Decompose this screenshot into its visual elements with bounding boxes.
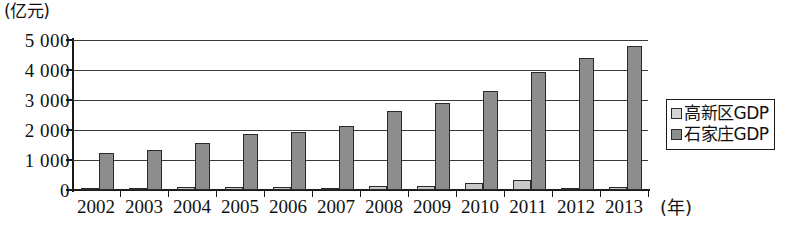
x-axis-unit-label: (年) xyxy=(660,197,692,219)
bar-shijiazhuang-2011 xyxy=(531,72,546,191)
bar-shijiazhuang-2004 xyxy=(195,143,210,190)
legend-item-0: 高新区GDP xyxy=(671,103,769,124)
bar-group-2004 xyxy=(168,40,216,190)
x-tick-label-2005: 2005 xyxy=(221,196,259,218)
bar-gaoxinqu-2002 xyxy=(81,188,99,190)
y-tick-label-5000: 5 000 xyxy=(25,31,70,50)
bar-gaoxinqu-2008 xyxy=(369,186,387,190)
bar-shijiazhuang-2008 xyxy=(387,111,402,191)
bar-shijiazhuang-2003 xyxy=(147,150,162,190)
legend-swatch-icon-1 xyxy=(671,129,682,140)
y-axis-tick-labels: 01 0002 0003 0004 0005 000 xyxy=(0,0,70,225)
legend-label-1: 石家庄GDP xyxy=(684,124,769,145)
x-tick-label-2002: 2002 xyxy=(77,196,115,218)
legend-swatch-icon-0 xyxy=(671,108,682,119)
bar-shijiazhuang-2010 xyxy=(483,91,498,190)
x-tick-label-2009: 2009 xyxy=(413,196,451,218)
bar-shijiazhuang-2005 xyxy=(243,134,258,190)
x-tick-label-2004: 2004 xyxy=(173,196,211,218)
x-tick-label-2012: 2012 xyxy=(557,196,595,218)
y-tick-label-3000: 3 000 xyxy=(25,91,70,110)
bar-group-2012 xyxy=(552,40,600,190)
bar-groups xyxy=(72,40,648,190)
legend-item-1: 石家庄GDP xyxy=(671,124,769,145)
bar-gaoxinqu-2003 xyxy=(129,188,147,190)
x-tick-label-2003: 2003 xyxy=(125,196,163,218)
bar-group-2008 xyxy=(360,40,408,190)
x-axis-tick-labels: 2002200320042005200620072008200920102011… xyxy=(72,196,672,222)
bar-gaoxinqu-2009 xyxy=(417,186,435,191)
bar-group-2013 xyxy=(600,40,648,190)
bar-group-2003 xyxy=(120,40,168,190)
bar-gaoxinqu-2004 xyxy=(177,187,195,190)
x-tick-label-2006: 2006 xyxy=(269,196,307,218)
bar-group-2007 xyxy=(312,40,360,190)
bar-group-2011 xyxy=(504,40,552,190)
x-tick-label-2011: 2011 xyxy=(509,196,546,218)
x-tick-label-2007: 2007 xyxy=(317,196,355,218)
y-tick-label-4000: 4 000 xyxy=(25,61,70,80)
x-tick-label-2008: 2008 xyxy=(365,196,403,218)
bar-group-2010 xyxy=(456,40,504,190)
bar-shijiazhuang-2006 xyxy=(291,132,306,190)
bar-gaoxinqu-2007 xyxy=(321,188,339,190)
bar-gaoxinqu-2012 xyxy=(561,188,579,190)
bar-shijiazhuang-2009 xyxy=(435,103,450,190)
bar-shijiazhuang-2012 xyxy=(579,58,594,190)
bar-gaoxinqu-2006 xyxy=(273,187,291,190)
gdp-bar-chart: (亿元) 01 0002 0003 0004 0005 000 20022003… xyxy=(0,0,807,225)
bar-gaoxinqu-2010 xyxy=(465,183,483,191)
x-tick-label-2013: 2013 xyxy=(605,196,643,218)
plot-area xyxy=(72,40,648,190)
bar-group-2005 xyxy=(216,40,264,190)
legend-label-0: 高新区GDP xyxy=(684,103,769,124)
y-tick-label-1000: 1 000 xyxy=(25,151,70,170)
bar-gaoxinqu-2013 xyxy=(609,187,627,190)
x-tick-label-2010: 2010 xyxy=(461,196,499,218)
chart-legend: 高新区GDP 石家庄GDP xyxy=(666,99,775,150)
bar-group-2006 xyxy=(264,40,312,190)
y-tick-label-2000: 2 000 xyxy=(25,121,70,140)
bar-shijiazhuang-2007 xyxy=(339,126,354,191)
bar-group-2002 xyxy=(72,40,120,190)
bar-gaoxinqu-2011 xyxy=(513,180,531,190)
bar-shijiazhuang-2002 xyxy=(99,153,114,190)
bar-shijiazhuang-2013 xyxy=(627,46,642,190)
bar-gaoxinqu-2005 xyxy=(225,187,243,190)
bar-group-2009 xyxy=(408,40,456,190)
